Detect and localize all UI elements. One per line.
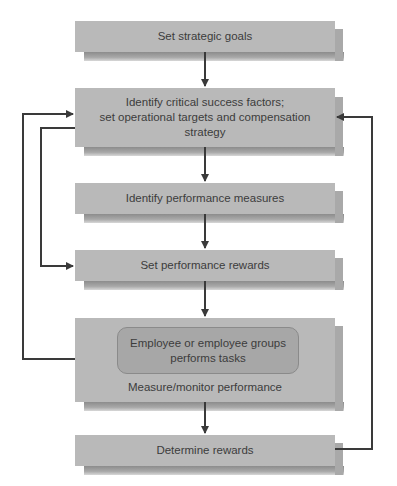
feedback-arrow-inner-left (41, 128, 75, 266)
connector-arrows (0, 0, 397, 486)
feedback-arrow-right (335, 117, 372, 449)
feedback-arrow-outer-left (23, 114, 75, 359)
